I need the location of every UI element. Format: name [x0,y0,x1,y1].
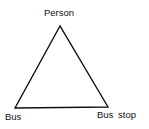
node-label-person: Person [44,8,74,18]
node-label-bus-stop: Bus stop [97,110,136,120]
node-label-bus: Bus [5,112,21,122]
triangle-edges [15,26,108,108]
